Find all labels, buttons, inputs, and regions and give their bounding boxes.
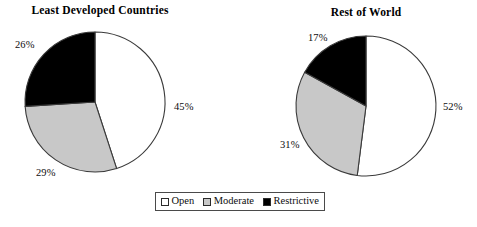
legend-label-restrictive: Restrictive xyxy=(273,196,319,207)
legend-item-open[interactable]: Open xyxy=(161,196,194,207)
legend-label-moderate: Moderate xyxy=(214,196,254,207)
pie-slice-restrictive[interactable] xyxy=(25,32,95,106)
pie-chart-least-developed-countries xyxy=(24,31,166,173)
legend-item-restrictive[interactable]: Restrictive xyxy=(263,196,319,207)
pie-slice-open[interactable] xyxy=(357,36,436,176)
pie-chart-figure: Least Developed Countries Rest of World … xyxy=(0,0,477,227)
pie-value-label-open-ldc: 45% xyxy=(174,101,194,112)
page-title-rest-of-world: Rest of World xyxy=(266,6,466,18)
legend-item-moderate[interactable]: Moderate xyxy=(203,196,254,207)
chart-legend: Open Moderate Restrictive xyxy=(155,192,325,211)
legend-swatch-restrictive-icon xyxy=(263,198,271,206)
pie-chart-rest-of-world xyxy=(295,35,437,177)
pie-value-label-open-row: 52% xyxy=(443,101,463,112)
pie-value-label-moderate-ldc: 29% xyxy=(36,167,56,178)
pie-value-label-moderate-row: 31% xyxy=(280,139,300,150)
pie-svg-rest-of-world xyxy=(295,35,437,177)
pie-value-label-restrictive-row: 17% xyxy=(308,32,328,43)
pie-svg-least-developed-countries xyxy=(24,31,166,173)
page-title-least-developed-countries: Least Developed Countries xyxy=(0,4,200,16)
legend-label-open: Open xyxy=(172,196,195,207)
legend-swatch-open-icon xyxy=(161,198,169,206)
pie-value-label-restrictive-ldc: 26% xyxy=(15,39,35,50)
legend-swatch-moderate-icon xyxy=(203,198,211,206)
